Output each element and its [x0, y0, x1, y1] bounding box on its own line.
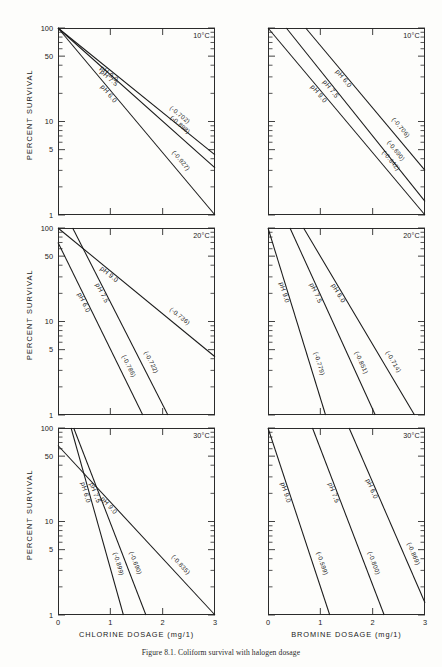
curve-label-ph60: pH 6.0 [329, 282, 347, 304]
curve-ph75 [286, 28, 425, 201]
y-tick-label: 10 [31, 317, 53, 326]
y-tick-label: 1 [31, 611, 53, 620]
curve-label-ph75: pH 7.5 [326, 481, 341, 504]
slope-label-ph75: (-0.690) [128, 550, 143, 575]
curve-ph75 [73, 228, 168, 415]
x-axis-label: BROMINE DOSAGE (mg/1) [268, 630, 425, 639]
curve-label-ph60: pH 6.0 [364, 477, 380, 500]
y-axis-label: PERCENT SURVIVAL [25, 269, 34, 360]
x-tick-label: 0 [261, 618, 275, 627]
curve-label-ph75: pH 7.5 [308, 282, 324, 305]
curve-label-ph60: pH 6.0 [334, 68, 354, 89]
plot-panel-chlorine-10: 10°CpH 6.0(-0.927)pH 7.5(-0.898)pH 9.0(-… [58, 28, 215, 215]
plot-panel-bromine-30: 30°CpH 9.0(-0.599)pH 7.5(-0.800)pH 6.0(-… [268, 428, 425, 615]
slope-label-ph60: (-0.927) [171, 149, 192, 172]
curve-ph90 [268, 428, 330, 615]
curve-ph90 [268, 228, 326, 415]
slope-label-ph75: (-0.800) [367, 550, 382, 575]
curve-label-ph60: pH 6.0 [75, 291, 92, 314]
curve-label-ph90: pH 9.0 [98, 265, 120, 285]
slope-label-ph90: (-0.599) [316, 551, 330, 576]
slope-label-ph90: (-0.736) [169, 306, 192, 327]
slope-label-ph90: (-0.779) [313, 351, 327, 376]
curve-ph75 [290, 228, 375, 415]
figure-root: 10°CpH 6.0(-0.927)pH 7.5(-0.898)pH 9.0(-… [0, 0, 442, 667]
y-tick-label: 100 [31, 24, 53, 33]
curve-ph75 [74, 428, 146, 615]
y-tick-label: 50 [31, 52, 53, 61]
slope-label-ph60: (-0.869) [406, 541, 422, 566]
curve-ph75 [58, 28, 215, 168]
y-tick-label: 5 [31, 345, 53, 354]
y-tick-label: 1 [31, 211, 53, 220]
y-tick-label: 50 [31, 252, 53, 261]
curve-ph60 [71, 428, 123, 615]
x-axis-label: CHLORINE DOSAGE (mg/1) [58, 630, 215, 639]
curve-ph75 [312, 428, 384, 615]
slope-label-ph90: (-0.835) [170, 553, 191, 575]
plot-panel-chlorine-20: 20°CpH 6.0(-0.786)pH 7.5(-0.722)pH 9.0(-… [58, 228, 215, 415]
y-axis-label: PERCENT SURVIVAL [25, 469, 34, 560]
x-tick-label: 2 [366, 618, 380, 627]
slope-label-ph60: (-0.899) [112, 551, 125, 576]
curve-label-ph90: pH 9.0 [279, 481, 293, 504]
y-tick-label: 100 [31, 424, 53, 433]
y-tick-label: 100 [31, 224, 53, 233]
y-tick-label: 1 [31, 411, 53, 420]
slope-label-ph60: (-0.706) [391, 116, 412, 139]
slope-label-ph75: (-0.851) [354, 350, 370, 375]
x-tick-label: 3 [208, 618, 222, 627]
y-tick-label: 10 [31, 517, 53, 526]
curve-label-ph90: pH 9.0 [99, 495, 119, 516]
curve-ph90 [58, 28, 215, 155]
y-tick-label: 5 [31, 545, 53, 554]
x-tick-label: 2 [156, 618, 170, 627]
figure-caption: Figure 8.1. Coliform survival with halog… [0, 648, 442, 657]
y-axis-label: PERCENT SURVIVAL [25, 69, 34, 160]
curve-ph60 [58, 28, 215, 215]
plot-panel-chlorine-30: 30°CpH 6.0(-0.899)pH 7.5(-0.690)pH 9.0(-… [58, 428, 215, 615]
plot-panel-bromine-20: 20°CpH 9.0(-0.779)pH 7.5(-0.851)pH 6.0(-… [268, 228, 425, 415]
x-tick-label: 1 [313, 618, 327, 627]
x-tick-label: 1 [103, 618, 117, 627]
y-tick-label: 5 [31, 145, 53, 154]
curve-ph60 [349, 428, 425, 603]
curve-label-ph90: pH 9.0 [277, 281, 291, 304]
panel-grid: 10°CpH 6.0(-0.927)pH 7.5(-0.898)pH 9.0(-… [0, 0, 442, 640]
curve-label-ph75: pH 7.5 [94, 282, 111, 305]
y-tick-label: 10 [31, 117, 53, 126]
plot-panel-bromine-10: 10°CpH 9.0(-0.642)pH 7.5(-0.690)pH 6.0(-… [268, 28, 425, 215]
curve-ph60 [304, 228, 415, 415]
x-tick-label: 0 [51, 618, 65, 627]
x-tick-label: 3 [418, 618, 432, 627]
y-tick-label: 50 [31, 452, 53, 461]
